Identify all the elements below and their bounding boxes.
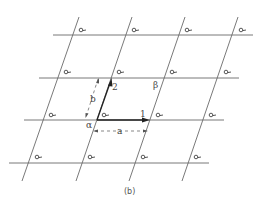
- loop-motif: [156, 113, 163, 117]
- vector-1-label: 1: [140, 109, 146, 119]
- loop-motif: [141, 155, 148, 159]
- loop-motif: [64, 70, 71, 74]
- figure-caption: (b): [124, 187, 135, 196]
- loop-motif: [35, 155, 42, 159]
- row-lines: [9, 35, 253, 163]
- loop-motif: [170, 70, 177, 74]
- loop-motif: [185, 28, 192, 32]
- loop-motif: [239, 28, 246, 32]
- column-lines: [22, 17, 238, 181]
- loop-motif: [49, 113, 56, 117]
- loop-motif: [132, 28, 139, 32]
- dimension-b-top-arrowhead-icon: [96, 78, 99, 84]
- lattice-diagram: 1 2 a b α β (b): [0, 0, 263, 201]
- motifs: [35, 28, 246, 159]
- dimension-b-bottom-arrowhead-icon: [86, 113, 89, 118]
- vector-2-label: 2: [112, 82, 118, 92]
- loop-motif: [102, 113, 109, 117]
- column-line: [129, 17, 185, 181]
- column-line: [182, 17, 238, 181]
- loop-motif: [117, 70, 124, 74]
- loop-motif: [194, 155, 201, 159]
- loop-motif: [224, 70, 231, 74]
- length-b-label: b: [90, 94, 96, 104]
- vector-2-arrow: [97, 83, 110, 120]
- loop-motif: [79, 28, 86, 32]
- angle-alpha-label: α: [86, 120, 92, 130]
- loop-motif: [88, 155, 95, 159]
- length-a-label: a: [117, 126, 123, 136]
- angle-beta-label: β: [153, 80, 158, 90]
- column-line: [22, 17, 79, 181]
- loop-motif: [209, 113, 216, 117]
